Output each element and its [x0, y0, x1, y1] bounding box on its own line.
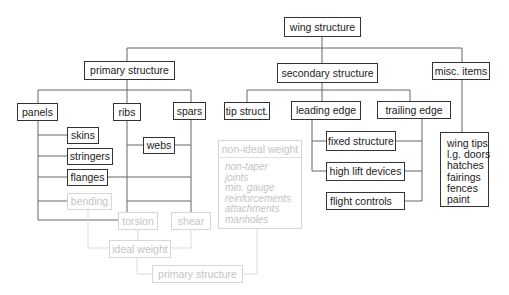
node-trailing-edge: trailing edge [377, 101, 451, 119]
misc-item: paint [447, 194, 470, 205]
node-webs: webs [143, 137, 175, 154]
node-skins: skins [67, 127, 99, 144]
node-torsion: torsion [118, 212, 158, 230]
node-high-lift-devices: high lift devices [326, 162, 405, 181]
node-tip-struct: tip struct. [224, 102, 270, 120]
node-misc-items: misc. items [432, 62, 490, 80]
node-non-ideal-weight: non-ideal weight non-taper joints min. g… [218, 140, 302, 229]
non-ideal-item: manholes [225, 215, 301, 226]
node-fixed-structure: fixed structure [326, 131, 396, 151]
node-panels: panels [17, 103, 58, 121]
misc-item: hatches [447, 160, 484, 171]
node-ribs: ribs [113, 103, 141, 121]
node-primary-structure-result: primary structure [152, 265, 243, 283]
node-stringers: stringers [67, 148, 113, 165]
node-primary-structure: primary structure [84, 61, 175, 80]
node-bending: bending [67, 193, 112, 210]
non-ideal-item: non-taper [225, 162, 301, 173]
node-flight-controls: flight controls [326, 192, 405, 210]
node-spars: spars [173, 102, 206, 120]
non-ideal-weight-list: non-taper joints min. gauge reinforcemen… [219, 158, 301, 226]
node-flanges: flanges [67, 169, 108, 186]
node-shear: shear [171, 212, 211, 230]
node-secondary-structure: secondary structure [277, 63, 378, 83]
node-wing-structure: wing structure [284, 17, 361, 37]
node-misc-list: wing tips l.g. doors hatches fairings fe… [440, 132, 489, 207]
node-ideal-weight: ideal weight [109, 240, 171, 258]
non-ideal-weight-title: non-ideal weight [219, 141, 301, 158]
node-leading-edge: leading edge [291, 101, 361, 120]
